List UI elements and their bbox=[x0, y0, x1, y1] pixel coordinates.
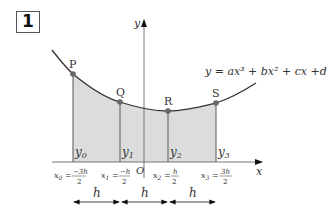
label-q: Q bbox=[116, 86, 125, 99]
svg-text:y3: y3 bbox=[217, 145, 230, 160]
svg-text:h: h bbox=[93, 186, 101, 200]
x-axis-label: x bbox=[256, 165, 263, 178]
svg-text:x1 =: x1 = bbox=[101, 171, 119, 181]
svg-text:2: 2 bbox=[172, 178, 176, 186]
svg-text:x2 =: x2 = bbox=[153, 171, 171, 181]
simpsons-rule-diagram: 1 bbox=[0, 0, 328, 217]
svg-text:−h: −h bbox=[120, 168, 130, 176]
svg-text:−3h: −3h bbox=[73, 168, 88, 176]
svg-text:2: 2 bbox=[223, 178, 227, 186]
equation-label: y = ax³ + bx² + cx +d bbox=[204, 65, 327, 78]
label-s: S bbox=[212, 87, 220, 100]
y-axis-label: y bbox=[133, 17, 141, 30]
label-r: R bbox=[164, 95, 173, 108]
point-r bbox=[165, 108, 171, 114]
svg-text:x3 =: x3 = bbox=[201, 171, 219, 181]
svg-text:3h: 3h bbox=[221, 168, 230, 176]
svg-text:x0 =: x0 = bbox=[54, 171, 72, 181]
point-p bbox=[70, 71, 76, 77]
figure-number: 1 bbox=[16, 11, 40, 33]
svg-text:2: 2 bbox=[77, 178, 81, 186]
svg-text:2: 2 bbox=[122, 178, 126, 186]
svg-text:h: h bbox=[173, 168, 178, 176]
point-s bbox=[213, 100, 219, 106]
interval-labels: h h h bbox=[93, 186, 197, 200]
origin-label: O bbox=[136, 165, 144, 176]
svg-text:h: h bbox=[189, 186, 197, 200]
svg-text:h: h bbox=[141, 186, 149, 200]
label-p: P bbox=[69, 58, 77, 71]
point-q bbox=[117, 99, 123, 105]
